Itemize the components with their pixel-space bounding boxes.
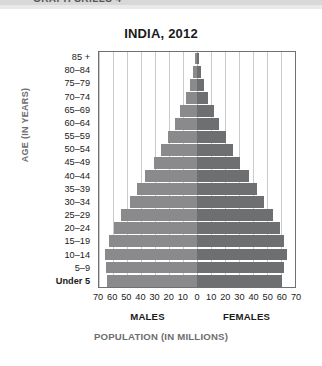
male-bar-slot (99, 53, 197, 65)
bar-male (106, 262, 197, 274)
bar-row (99, 91, 295, 104)
x-axis-tick-label: 70 (291, 291, 301, 304)
series-label-females: FEMALES (197, 311, 296, 322)
bar-row (99, 235, 295, 248)
bar-row (99, 209, 295, 222)
bar-row (99, 170, 295, 183)
male-bar-slot (99, 92, 197, 104)
bar-row (99, 130, 295, 143)
y-axis-tick-label: 20–24 (34, 222, 94, 235)
bar-row (99, 117, 295, 130)
male-bar-slot (99, 170, 197, 182)
bar-pair (99, 275, 295, 287)
y-axis-tick-label: 30–34 (34, 196, 94, 209)
bar-pair (99, 144, 295, 156)
male-bar-slot (99, 105, 197, 117)
x-axis-tick-label: 30 (149, 291, 159, 304)
series-label-males: MALES (98, 311, 197, 322)
population-pyramid-plot (98, 51, 296, 288)
x-axis-tick-label: 40 (135, 291, 145, 304)
bar-group (99, 52, 295, 287)
bar-pair (99, 222, 295, 234)
female-bar-slot (197, 118, 295, 130)
female-bar-slot (197, 131, 295, 143)
bar-male (105, 249, 197, 261)
bar-row (99, 143, 295, 156)
bar-pair (99, 131, 295, 143)
y-axis-tick-label: 40–44 (34, 170, 94, 183)
male-bar-slot (99, 118, 197, 130)
y-axis-tick-label: 15–19 (34, 235, 94, 248)
bar-female (197, 66, 201, 78)
bar-pair (99, 92, 295, 104)
female-bar-slot (197, 209, 295, 221)
bar-female (197, 157, 240, 169)
y-axis-tick-label: 35–39 (34, 183, 94, 196)
bar-male (186, 92, 197, 104)
female-bar-slot (197, 170, 295, 182)
y-axis-tick-label: 45–49 (34, 156, 94, 169)
bar-female (197, 275, 282, 287)
y-axis-tick-label: 65–69 (34, 104, 94, 117)
male-bar-slot (99, 275, 197, 287)
female-bar-slot (197, 183, 295, 195)
bar-female (197, 144, 233, 156)
y-axis-tick-label: 85 + (34, 51, 94, 64)
bar-row (99, 248, 295, 261)
male-bar-slot (99, 66, 197, 78)
male-bar-slot (99, 209, 197, 221)
bar-female (197, 196, 264, 208)
male-bar-slot (99, 144, 197, 156)
female-bar-slot (197, 262, 295, 274)
bar-pair (99, 118, 295, 130)
y-axis-tick-label: 55–59 (34, 130, 94, 143)
bar-male (175, 118, 197, 130)
bar-pair (99, 249, 295, 261)
male-bar-slot (99, 249, 197, 261)
y-axis-tick-label: 5–9 (34, 262, 94, 275)
x-axis-tick-label: 30 (234, 291, 244, 304)
x-axis-tick-label: 20 (220, 291, 230, 304)
y-axis-tick-label: 50–54 (34, 143, 94, 156)
bar-row (99, 261, 295, 274)
bar-pair (99, 183, 295, 195)
female-bar-slot (197, 92, 295, 104)
bar-female (197, 183, 257, 195)
bar-female (197, 92, 208, 104)
x-axis-tick-label: 70 (93, 291, 103, 304)
y-axis-tick-labels: 85 +80–8475–7970–7465–6960–6455–5950–544… (34, 51, 94, 288)
bar-female (197, 235, 284, 247)
y-axis-tick-label: 60–64 (34, 117, 94, 130)
y-axis-tick-label: 70–74 (34, 91, 94, 104)
bar-female (197, 222, 280, 234)
chart-title: INDIA, 2012 (0, 26, 322, 41)
x-axis-tick-label: 50 (263, 291, 273, 304)
bar-male (168, 131, 197, 143)
bar-male (190, 79, 197, 91)
female-bar-slot (197, 144, 295, 156)
bar-row (99, 52, 295, 65)
x-axis-tick-label: 20 (164, 291, 174, 304)
male-bar-slot (99, 183, 197, 195)
y-axis-title: AGE (IN YEARS) (20, 70, 30, 180)
female-bar-slot (197, 275, 295, 287)
female-bar-slot (197, 157, 295, 169)
y-axis-tick-label: 10–14 (34, 249, 94, 262)
y-axis-tick-label: 25–29 (34, 209, 94, 222)
bar-male (161, 144, 197, 156)
female-bar-slot (197, 222, 295, 234)
bar-female (197, 79, 204, 91)
series-legend: MALESFEMALES (98, 311, 296, 322)
y-axis-tick-label: 80–84 (34, 64, 94, 77)
bar-male (121, 209, 197, 221)
bar-row (99, 78, 295, 91)
bar-male (107, 275, 197, 287)
bar-male (109, 235, 197, 247)
bar-female (197, 131, 226, 143)
female-bar-slot (197, 53, 295, 65)
x-axis-tick-labels: 70605040302010010203040506070 (98, 291, 296, 304)
bar-row (99, 183, 295, 196)
bar-pair (99, 262, 295, 274)
male-bar-slot (99, 157, 197, 169)
bar-male (130, 196, 197, 208)
